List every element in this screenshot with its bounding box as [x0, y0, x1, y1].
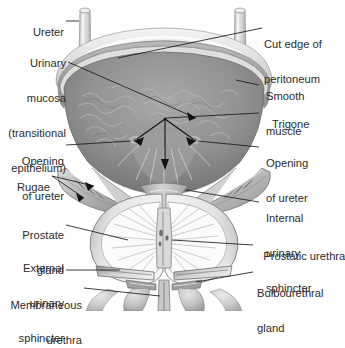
- label-smooth-muscle-line1: Smooth: [266, 91, 326, 103]
- prostatic-urethra: [156, 208, 172, 268]
- label-internal-urinary-sphincter-line1: Internal: [266, 213, 327, 225]
- label-external-urinary-sphincter-line1: External: [0, 263, 64, 275]
- label-trigone-line1: Trigone: [272, 118, 310, 130]
- label-bulbourethral-gland-line1: Bulbourethral: [257, 288, 327, 300]
- label-urinary-mucosa-line1: Urinary: [0, 58, 66, 70]
- label-urinary-mucosa-line2: mucosa: [0, 93, 66, 105]
- label-bulbourethral-gland: Bulbourethral gland: [257, 265, 327, 346]
- label-membraneous-urethra-line2: urethra: [0, 335, 82, 347]
- label-opening-of-ureter-right-line1: Opening: [266, 158, 327, 170]
- label-bulbourethral-gland-line2: gland: [257, 323, 327, 335]
- label-opening-of-ureter-left-line1: Opening: [0, 156, 64, 168]
- label-membraneous-urethra: Membraneous urethra: [0, 277, 82, 348]
- label-rugae-line1: Rugae: [17, 181, 50, 193]
- label-prostatic-urethra: Prostatic urethra: [257, 239, 327, 262]
- label-rugae: Rugae: [0, 170, 50, 193]
- label-membraneous-urethra-line1: Membraneous: [0, 300, 82, 312]
- membraneous-urethra: [158, 280, 170, 311]
- label-trigone: Trigone: [266, 107, 326, 130]
- label-prostatic-urethra-line1: Prostatic urethra: [263, 250, 345, 262]
- label-cut-edge-of-peritoneum-line1: Cut edge of: [264, 39, 327, 51]
